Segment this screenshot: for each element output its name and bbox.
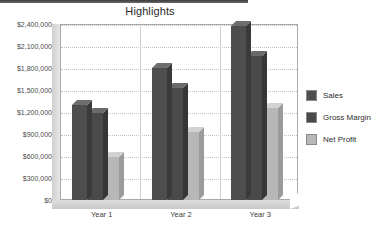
legend-item-sales[interactable]: Sales	[306, 84, 386, 106]
bar-side	[167, 63, 172, 200]
bar-side	[119, 152, 124, 200]
y-axis-tick-label: $1,200,000	[0, 109, 52, 116]
x-axis-tick-labels: Year 1Year 2Year 3	[60, 210, 305, 224]
bar-side	[103, 108, 108, 200]
legend-label: Net Profit	[323, 135, 356, 144]
highlights-bar-chart: Highlights $0$300,000$600,000$900,000$1,…	[0, 0, 388, 229]
bar-face	[72, 105, 87, 200]
y-axis-tick-label: $1,800,000	[0, 65, 52, 72]
y-axis-tick-label: $900,000	[0, 131, 52, 138]
bar-side	[262, 51, 267, 200]
chart-legend: SalesGross MarginNet Profit	[306, 84, 386, 150]
bar-year-1-sales	[72, 105, 87, 200]
bar-face	[152, 68, 167, 200]
y-axis-tick-label: $2,400,000	[0, 21, 52, 28]
y-axis-tick-label: $1,500,000	[0, 87, 52, 94]
bar-side	[278, 103, 283, 200]
y-axis-tick-label: $0	[0, 197, 52, 204]
bar-side	[87, 100, 92, 200]
legend-label: Gross Margin	[323, 113, 371, 122]
legend-swatch	[306, 134, 317, 145]
bar-side	[199, 127, 204, 200]
chart-floor-corner	[290, 192, 302, 209]
bar-year-2-sales	[152, 68, 167, 200]
y-axis-tick-labels: $0$300,000$600,000$900,000$1,200,000$1,5…	[0, 24, 52, 200]
legend-label: Sales	[323, 91, 343, 100]
bars-layer	[60, 24, 298, 200]
bar-side	[246, 21, 251, 200]
x-axis-tick-label: Year 2	[170, 210, 191, 219]
y-axis-tick-label: $300,000	[0, 175, 52, 182]
x-axis-tick-label: Year 3	[250, 210, 271, 219]
legend-swatch	[306, 90, 317, 101]
bar-year-3-sales	[231, 26, 246, 200]
y-axis-tick-label: $2,100,000	[0, 43, 52, 50]
bar-side	[183, 83, 188, 200]
x-axis-tick-label: Year 1	[91, 210, 112, 219]
bar-face	[231, 26, 246, 200]
legend-swatch	[306, 112, 317, 123]
legend-item-gross-margin[interactable]: Gross Margin	[306, 106, 386, 128]
y-axis-tick-label: $600,000	[0, 153, 52, 160]
chart-floor	[52, 200, 299, 209]
chart-title: Highlights	[0, 5, 300, 17]
legend-item-net-profit[interactable]: Net Profit	[306, 128, 386, 150]
